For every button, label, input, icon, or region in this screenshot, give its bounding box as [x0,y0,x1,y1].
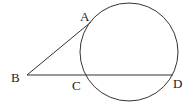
label-B: B [11,70,20,85]
segment-BA [27,22,91,75]
label-D: D [173,76,182,91]
label-A: A [80,9,90,24]
geometry-diagram: A B C D [0,0,192,104]
circle [80,3,178,101]
label-C: C [72,78,81,93]
